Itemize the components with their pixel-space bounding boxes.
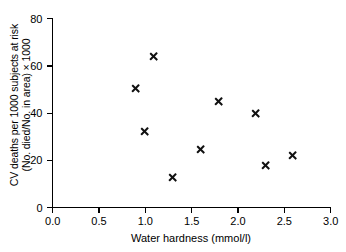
- x-tick: 2.5: [284, 207, 285, 213]
- x-tick-label: 0.0: [45, 215, 60, 227]
- data-point-marker: [168, 173, 177, 182]
- y-tick-label: 20: [30, 154, 42, 166]
- data-point-marker: [196, 145, 205, 154]
- data-point-marker: [149, 52, 158, 61]
- data-point-marker: [131, 84, 140, 93]
- y-tick-label: 60: [30, 60, 42, 72]
- x-tick-label: 0.5: [91, 215, 106, 227]
- y-axis-title-line-2: (No. died/No. in area) × 1000: [21, 39, 33, 172]
- x-tick: 3.0: [330, 207, 331, 213]
- y-axis-title: CV deaths per 1000 subjects at risk (No.…: [5, 10, 37, 200]
- y-tick: 40: [47, 113, 53, 114]
- plot-area: 020406080 0.00.51.01.52.02.53.0: [52, 18, 330, 207]
- y-tick: 80: [47, 18, 53, 19]
- x-axis-title: Water hardness (mmol/l): [52, 232, 330, 244]
- x-tick-label: 3.0: [323, 215, 338, 227]
- x-tick-label: 2.0: [230, 215, 245, 227]
- y-tick-label: 40: [30, 107, 42, 119]
- y-tick-label: 0: [36, 202, 42, 214]
- x-tick: 1.0: [145, 207, 146, 213]
- x-tick: 2.0: [237, 207, 238, 213]
- data-point-marker: [251, 109, 260, 118]
- x-tick-label: 2.5: [277, 215, 292, 227]
- x-tick-label: 1.5: [184, 215, 199, 227]
- x-tick: 1.5: [191, 207, 192, 213]
- y-tick: 60: [47, 65, 53, 66]
- data-point-marker: [214, 97, 223, 106]
- data-point-marker: [140, 127, 149, 136]
- x-tick: 0.5: [98, 207, 99, 213]
- y-tick-label: 80: [30, 13, 42, 25]
- x-tick: 0.0: [52, 207, 53, 213]
- data-point-marker: [261, 161, 270, 170]
- data-point-marker: [288, 151, 297, 160]
- scatter-chart-figure: CV deaths per 1000 subjects at risk (No.…: [0, 0, 346, 252]
- y-tick: 20: [47, 160, 53, 161]
- y-axis-line: [52, 18, 53, 207]
- x-tick-label: 1.0: [138, 215, 153, 227]
